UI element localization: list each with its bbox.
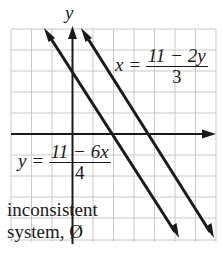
eq2-denominator: 4 <box>49 163 111 184</box>
eq1-numerator: 11 − 2y <box>146 46 208 67</box>
equation-x: x = 11 − 2y 3 <box>115 46 208 88</box>
eq1-fraction: 11 − 2y 3 <box>146 46 208 88</box>
note-line-1: inconsistent <box>7 200 98 219</box>
eq2-lhs: y = <box>18 150 44 171</box>
eq2-fraction: 11 − 6x 4 <box>49 142 111 184</box>
y-axis-label: y <box>65 3 73 22</box>
x-axis-arrow-icon <box>202 130 216 139</box>
y-axis-arrow-icon <box>68 26 77 39</box>
eq1-denominator: 3 <box>146 67 208 88</box>
eq1-lhs: x = <box>115 54 141 75</box>
equation-y: y = 11 − 6x 4 <box>18 142 111 184</box>
eq2-numerator: 11 − 6x <box>49 142 111 163</box>
note-line-2: system, Ø <box>7 222 83 241</box>
